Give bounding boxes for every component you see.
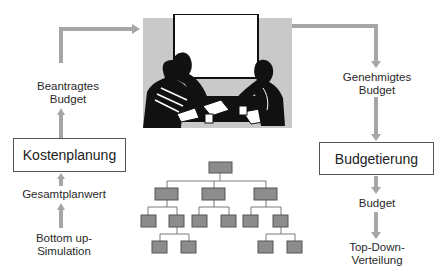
org-box-l3-4 <box>287 241 302 253</box>
arrow-approved-to-budgetierung <box>371 97 381 141</box>
org-box-l2-3 <box>192 215 207 227</box>
box-kostenplanung-label: Kostenplanung <box>23 147 116 163</box>
box-kostenplanung: Kostenplanung <box>13 138 126 172</box>
org-chart <box>148 173 295 241</box>
org-box-l3-3 <box>258 241 273 253</box>
org-box-l1-2 <box>202 188 225 200</box>
label-budget: Budget <box>359 197 395 210</box>
org-box-root <box>209 162 232 173</box>
label-requested-budget-line1: Beantragtes <box>37 80 99 93</box>
org-box-l2-2 <box>169 215 184 227</box>
org-box-l2-6 <box>273 215 288 227</box>
label-approved-budget-line2: Budget <box>343 84 411 97</box>
arrow-request-to-meeting <box>61 24 140 63</box>
org-box-l1-1 <box>155 188 178 200</box>
box-budgetierung-label: Budgetierung <box>335 151 418 167</box>
label-approved-budget: Genehmigtes Budget <box>343 71 411 97</box>
org-box-l3-2 <box>181 241 196 253</box>
label-bottom-up-line2: Simulation <box>36 245 92 258</box>
org-box-l2-4 <box>221 215 236 227</box>
label-gesamtplanwert: Gesamtplanwert <box>22 188 106 201</box>
org-box-l3-1 <box>152 241 167 253</box>
org-box-l1-3 <box>254 188 277 200</box>
org-box-l2-1 <box>141 215 156 227</box>
label-top-down-distribution: Top-Down- Verteilung <box>349 241 405 267</box>
label-top-down-line1: Top-Down- <box>349 241 405 254</box>
org-box-l2-5 <box>243 215 258 227</box>
arrow-meeting-to-approved <box>290 26 381 68</box>
arrow-kostenplanung-to-request <box>57 108 65 138</box>
label-requested-budget: Beantragtes Budget <box>37 80 99 106</box>
label-approved-budget-line1: Genehmigtes <box>343 71 411 84</box>
box-budgetierung: Budgetierung <box>319 142 434 175</box>
arrow-budget-to-topdown <box>371 212 381 239</box>
label-bottom-up-line1: Bottom up- <box>36 232 92 245</box>
arrow-gesamtplanwert-to-kostenplanung <box>57 173 65 186</box>
label-top-down-line2: Verteilung <box>349 254 405 267</box>
arrow-budgetierung-to-budget <box>371 176 381 194</box>
label-requested-budget-line2: Budget <box>37 93 99 106</box>
label-bottom-up-simulation: Bottom up- Simulation <box>36 232 92 258</box>
arrow-bottomup-to-gesamtplanwert <box>57 203 65 228</box>
meeting-illustration <box>143 14 293 129</box>
